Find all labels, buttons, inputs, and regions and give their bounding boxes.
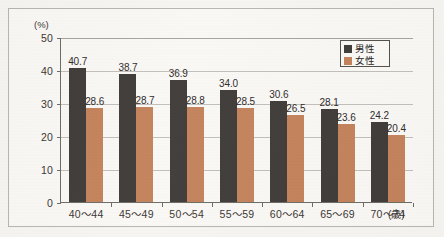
bar-male [220,90,237,202]
bar-value-label: 23.6 [337,112,356,123]
bar-male [270,101,287,202]
bar-value-label: 34.0 [219,78,238,89]
bar-male [170,80,187,202]
bar-female [338,124,355,202]
bar-male [119,74,136,202]
bar-value-label: 26.5 [286,103,305,114]
bar-group: 30.626.5 [262,37,312,202]
y-axis-label: 20 [19,131,53,143]
bar-chart: (%) 0102030405040.728.640〜4438.728.745〜4… [0,0,444,237]
x-axis-tick [363,203,364,207]
legend-label-male: 男性 [355,44,375,54]
bar-value-label: 28.5 [236,96,255,107]
bar-value-label: 36.9 [169,68,188,79]
x-axis-tick [262,203,263,207]
bar-group: 38.728.7 [111,37,161,202]
bar-value-label: 24.2 [370,110,389,121]
x-axis-category-label: 65〜69 [312,206,362,221]
x-axis-tick [312,203,313,207]
legend-label-female: 女性 [355,56,375,66]
x-axis-category-label: 45〜49 [111,206,161,221]
y-axis-label: 10 [19,164,53,176]
x-axis-category-label: 40〜44 [61,206,111,221]
male-swatch-icon [344,45,352,53]
female-swatch-icon [344,57,352,65]
bar-value-label: 40.7 [68,56,87,67]
x-axis-category-label: 55〜59 [212,206,262,221]
x-axis-tick [212,203,213,207]
x-axis-tick [162,203,163,207]
x-axis-category-label: 50〜54 [162,206,212,221]
bar-male [321,109,338,202]
bar-group: 34.028.5 [212,37,262,202]
bar-value-label: 28.6 [85,96,104,107]
y-axis-unit-label: (%) [34,19,49,30]
bar-value-label: 20.4 [387,123,406,134]
bar-group: 36.928.8 [162,37,212,202]
bar-female [388,135,405,202]
y-axis-label: 0 [19,197,53,209]
y-axis-label: 50 [19,32,53,44]
bar-male [371,122,388,202]
x-axis-tick [111,203,112,207]
bar-female [287,115,304,202]
bar-value-label: 28.8 [186,95,205,106]
bar-female [237,108,254,202]
bar-value-label: 30.6 [269,89,288,100]
bar-female [136,107,153,202]
y-axis-label: 30 [19,98,53,110]
bar-value-label: 28.7 [135,95,154,106]
x-axis-unit-label: (歳) [388,206,405,221]
chart-legend: 男性 女性 [340,40,390,67]
bar-group: 40.728.6 [61,37,111,202]
x-axis-category-label: 60〜64 [262,206,312,221]
bar-male [69,68,86,202]
legend-item-female: 女性 [344,55,386,66]
bar-value-label: 38.7 [118,62,137,73]
bar-female [86,108,103,202]
legend-item-male: 男性 [344,43,386,54]
y-axis-tick [57,203,61,204]
y-axis-label: 40 [19,65,53,77]
bar-female [187,107,204,202]
bar-value-label: 28.1 [320,97,339,108]
x-axis-tick-end [413,203,414,207]
